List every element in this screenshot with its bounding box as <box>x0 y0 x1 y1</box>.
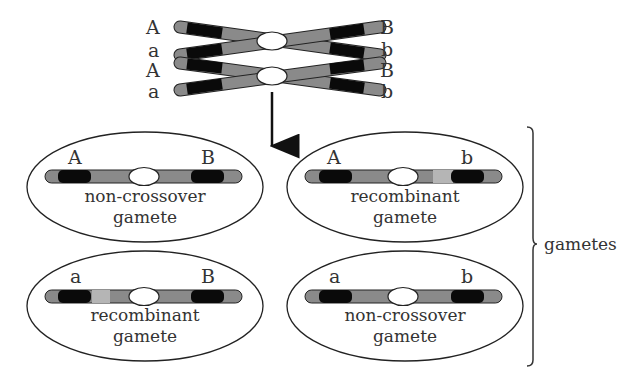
gametes-brace <box>527 127 537 366</box>
gamete-4-caption-line2: gamete <box>305 326 505 347</box>
gamete-2-caption-line2: gamete <box>305 207 505 228</box>
gamete-4-right-allele: b <box>461 267 473 286</box>
gamete-4-left-allele: a <box>329 267 340 286</box>
gamete-1-caption-line1: non-crossover <box>45 186 245 207</box>
parent-allele-right-2: b <box>381 40 393 59</box>
parent-allele-left-2: a <box>148 41 159 60</box>
gamete-2-caption: recombinant gamete <box>305 186 505 228</box>
gamete-4-caption-line1: non-crossover <box>305 305 505 326</box>
gamete-3-right-allele: B <box>201 267 215 286</box>
parent-allele-left-3: A <box>146 61 160 80</box>
gametes-label: gametes <box>544 234 617 255</box>
parent-allele-left-4: a <box>148 82 159 101</box>
gamete-4-caption: non-crossover gamete <box>305 305 505 347</box>
parent-allele-right-4: b <box>381 82 393 101</box>
parent-allele-left-1: A <box>146 18 160 37</box>
gamete-2-right-allele: b <box>461 148 473 167</box>
gamete-1-caption-line2: gamete <box>45 207 245 228</box>
gamete-2-caption-line1: recombinant <box>305 186 505 207</box>
gamete-1-caption: non-crossover gamete <box>45 186 245 228</box>
gamete-3-left-allele: a <box>70 267 81 286</box>
gamete-3-caption: recombinant gamete <box>45 305 245 347</box>
parent-chromosome-pair <box>180 27 380 90</box>
gamete-2-left-allele: A <box>327 148 341 167</box>
gamete-3-caption-line2: gamete <box>45 326 245 347</box>
parent-allele-right-1: B <box>380 18 394 37</box>
gamete-3-caption-line1: recombinant <box>45 305 245 326</box>
gamete-1-right-allele: B <box>201 148 215 167</box>
gamete-1-left-allele: A <box>68 148 82 167</box>
parent-allele-right-3: B <box>380 61 394 80</box>
